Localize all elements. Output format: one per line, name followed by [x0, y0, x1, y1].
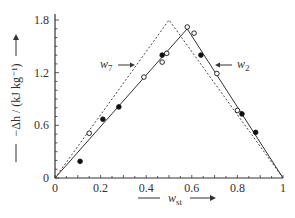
x-tick-label: 1 — [280, 181, 286, 195]
y-tick-label: 0 — [43, 171, 49, 185]
series-lines — [55, 20, 283, 178]
open-marker — [215, 71, 220, 76]
y-tick-label: 1.2 — [34, 66, 49, 80]
y-tick-label: 1.8 — [34, 13, 49, 27]
solid-fit-line — [55, 29, 283, 178]
filled-marker — [78, 159, 83, 164]
annotation-w7: w7 — [100, 57, 135, 73]
filled-marker — [160, 53, 165, 58]
filled-marker — [199, 53, 204, 58]
open-marker — [160, 60, 165, 65]
open-marker — [235, 108, 240, 113]
x-tick-label: 0.4 — [139, 181, 154, 195]
chart: 00.20.40.60.8100.61.21.8 wst −Δh / (kJ k… — [0, 0, 295, 218]
annotation-w2: w2 — [215, 57, 250, 73]
open-marker — [185, 25, 190, 30]
filled-marker — [240, 112, 245, 117]
svg-text:w7: w7 — [100, 57, 113, 73]
y-axis-label: −Δh / (kJ kg⁻¹) — [9, 34, 23, 162]
x-tick-label: 0.2 — [93, 181, 108, 195]
x-tick-label: 0 — [52, 181, 58, 195]
data-points — [78, 25, 258, 164]
axes — [55, 14, 283, 178]
open-marker — [164, 51, 169, 56]
x-tick-label: 0.6 — [184, 181, 199, 195]
svg-text:w2: w2 — [237, 57, 250, 73]
tick-labels: 00.20.40.60.8100.61.21.8 — [34, 13, 286, 195]
filled-marker — [101, 117, 106, 122]
svg-text:−Δh / (kJ kg⁻¹): −Δh / (kJ kg⁻¹) — [9, 63, 23, 136]
open-marker — [192, 31, 197, 36]
filled-marker — [253, 130, 258, 135]
open-marker — [142, 75, 147, 80]
x-tick-label: 0.8 — [230, 181, 245, 195]
open-marker — [87, 131, 92, 136]
svg-text:wst: wst — [168, 191, 183, 207]
y-tick-label: 0.6 — [34, 118, 49, 132]
filled-marker — [117, 105, 122, 110]
dashed-ideal-line — [55, 20, 283, 178]
